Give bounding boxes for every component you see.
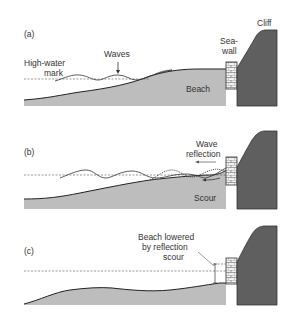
cliff-a [237, 30, 277, 106]
arrow-icon [116, 70, 120, 74]
lowered-label-2: by reflection [142, 242, 188, 252]
panel-label-c: (c) [24, 246, 34, 256]
arrow-left-icon [195, 161, 199, 164]
lowered-label-1: Beach lowered [138, 232, 195, 242]
hwm-label-1: High-water [24, 58, 65, 68]
beach-label: Beach [186, 84, 210, 94]
panel-a: (a) Cliff Sea- wall Waves High-water mar… [24, 18, 277, 106]
panel-label-a: (a) [24, 29, 35, 39]
waves-label: Waves [104, 49, 130, 59]
seawall-c [226, 258, 237, 284]
cliff-c [237, 226, 277, 305]
seawall-label-1: Sea- [220, 36, 238, 46]
lowered-label-3: scour [163, 252, 184, 262]
reflection-label-1: Wave [196, 139, 218, 149]
panel-label-b: (b) [24, 147, 35, 157]
seawall-label-2: wall [221, 46, 237, 56]
scour-label: Scour [194, 193, 216, 203]
panel-c: (c) Beach lowered by reflection scour [24, 226, 277, 305]
reflection-label-2: reflection [186, 149, 221, 159]
seawall-a [226, 62, 237, 89]
cliff-label: Cliff [257, 18, 272, 28]
panel-b: (b) Wave reflection Scour [24, 131, 277, 209]
cliff-b [237, 131, 277, 209]
seawall-b [226, 157, 237, 185]
hwm-label-2: mark [44, 68, 64, 78]
seawall-diagram: (a) Cliff Sea- wall Waves High-water mar… [0, 0, 298, 320]
